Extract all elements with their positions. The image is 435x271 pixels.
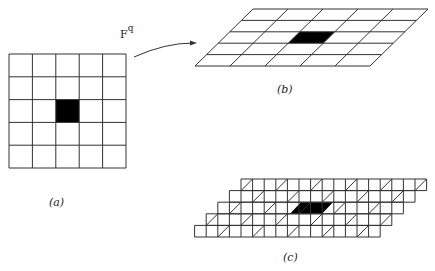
- map-superscript: q: [128, 23, 134, 33]
- panel-c-staircase-grid: [195, 179, 427, 237]
- panel-a-label: (a): [49, 196, 64, 209]
- diagram-canvas: [0, 0, 435, 271]
- map-base: F: [120, 28, 128, 41]
- map-label: Fq: [120, 25, 133, 41]
- map-arrow: [134, 41, 197, 58]
- filled-cell: [290, 202, 333, 214]
- panel-b-label: (b): [277, 83, 293, 96]
- arrowhead-icon: [190, 41, 197, 46]
- filled-cell: [288, 32, 335, 43]
- arrow-curve: [134, 43, 193, 57]
- panel-c-label: (c): [283, 251, 298, 264]
- panel-b-sheared-grid: [195, 9, 428, 66]
- panel-a-square-grid: [9, 54, 126, 168]
- filled-cell: [56, 100, 79, 123]
